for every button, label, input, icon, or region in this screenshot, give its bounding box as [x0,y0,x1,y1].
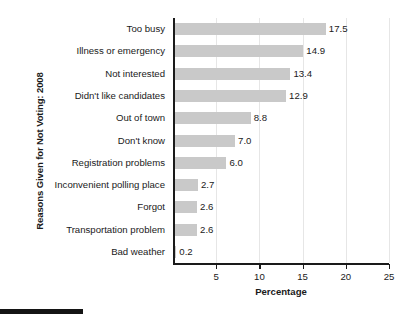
bar-value-label: 2.6 [200,201,213,213]
plot-area: 51015202517.514.913.412.98.87.06.02.72.6… [173,18,389,263]
x-axis-tick [346,264,347,269]
bar [175,157,227,169]
category-label-column: Too busyIllness or emergencyNot interest… [30,18,169,263]
category-label: Registration problems [72,157,165,169]
x-axis-line [173,263,389,265]
bar-value-label: 2.7 [201,179,214,191]
category-label: Transportation problem [66,224,165,236]
bar [175,179,198,191]
bar-value-label: 0.2 [179,246,192,258]
x-axis-tick [259,264,260,269]
category-label: Illness or emergency [76,45,165,57]
x-axis-tick-label: 25 [374,271,404,282]
category-label: Bad weather [111,246,165,258]
bar [175,68,291,80]
x-axis-tick-label: 5 [201,271,231,282]
x-axis-tick [216,264,217,269]
bar-value-label: 13.4 [293,68,312,80]
x-axis-title: Percentage [173,286,389,297]
category-label: Too busy [127,23,165,35]
bar-chart-figure: Reasons Given for Not Voting: 2008 Too b… [0,0,411,319]
x-axis-tick-label: 20 [331,271,361,282]
x-axis-tick [389,264,390,269]
footer-rule [0,309,83,314]
bar [175,246,177,258]
category-label: Don't know [118,135,165,147]
bar [175,90,286,102]
category-label: Not interested [105,68,165,80]
bar-value-label: 8.8 [254,112,267,124]
category-label: Inconvenient polling place [55,179,165,191]
category-label: Out of town [116,112,165,124]
bar-value-label: 2.6 [200,224,213,236]
category-label: Forgot [137,201,165,213]
bar [175,201,197,213]
category-label: Didn't like candidates [75,90,165,102]
bar [175,224,197,236]
gridline [389,18,390,263]
bar-value-label: 14.9 [306,45,325,57]
bar-value-label: 6.0 [229,157,242,169]
bar [175,135,235,147]
bar [175,23,326,35]
bar [175,45,304,57]
bar [175,112,251,124]
x-axis-tick [303,264,304,269]
x-axis-tick-label: 10 [244,271,274,282]
bar-value-label: 7.0 [238,135,251,147]
bar-value-label: 12.9 [289,90,308,102]
bar-value-label: 17.5 [329,23,348,35]
x-axis-tick-label: 15 [288,271,318,282]
gridline [346,18,347,263]
